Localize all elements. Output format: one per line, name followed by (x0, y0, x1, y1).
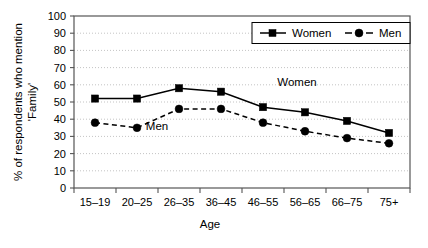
chart-container: 0102030405060708090100 15–1920–2526–3536… (0, 0, 428, 248)
annotation-men: Men (146, 120, 168, 132)
y-axis-title-line1: % of respondents who mention (12, 23, 24, 181)
y-tick-label-60: 60 (54, 79, 66, 91)
data-point-men-6: Men 66–75: 29 (343, 134, 351, 142)
data-point-men-2: Men 26–35: 46 (175, 105, 183, 113)
y-tick-label-90: 90 (54, 27, 66, 39)
y-tick-label-70: 70 (54, 62, 66, 74)
data-point-women-3: Women 36–45: 56 (217, 88, 224, 95)
x-axis-title: Age (200, 218, 220, 230)
data-point-women-5: Women 56–65: 44 (301, 109, 308, 116)
x-tick-label-5: 56–65 (290, 196, 321, 208)
x-tick-label-7: 75+ (380, 196, 399, 208)
annotation-women: Women (277, 76, 316, 88)
chart-legend[interactable]: Women Men (252, 23, 410, 44)
data-point-men-7: Men 75+: 26 (385, 139, 393, 147)
legend-marker-square-women (269, 30, 276, 37)
data-point-women-6: Women 66–75: 39 (343, 117, 350, 124)
data-point-men-0: Men 15–19: 38 (91, 119, 99, 127)
data-point-women-7: Women 75+: 32 (385, 129, 392, 136)
family-mention-by-age-line-chart: 0102030405060708090100 15–1920–2526–3536… (0, 0, 428, 248)
data-point-women-1: Women 20–25: 52 (133, 95, 140, 102)
legend-label-men: Men (379, 27, 401, 39)
y-tick-label-0: 0 (60, 182, 66, 194)
x-tick-label-3: 36–45 (206, 196, 237, 208)
y-tick-label-40: 40 (54, 113, 66, 125)
data-point-men-1: Men 20–25: 35 (133, 124, 141, 132)
data-point-men-4: Men 46–55: 38 (259, 119, 267, 127)
data-point-men-3: Men 36–45: 46 (217, 105, 225, 113)
y-tick-label-80: 80 (54, 44, 66, 56)
y-tick-label-10: 10 (54, 165, 66, 177)
x-tick-label-0: 15–19 (80, 196, 111, 208)
x-tick-label-4: 46–55 (248, 196, 279, 208)
y-tick-label-20: 20 (54, 148, 66, 160)
x-tick-label-6: 66–75 (332, 196, 363, 208)
y-tick-label-50: 50 (54, 96, 66, 108)
legend-label-women: Women (292, 27, 331, 39)
data-point-women-0: Women 15–19: 52 (91, 95, 98, 102)
y-tick-label-30: 30 (54, 130, 66, 142)
y-axis-title-line2: 'Family' (26, 83, 38, 121)
data-point-women-4: Women 46–55: 47 (259, 104, 266, 111)
legend-marker-circle-men (355, 29, 363, 37)
data-point-women-2: Women 26–35: 58 (175, 85, 182, 92)
y-tick-label-100: 100 (48, 10, 66, 22)
x-tick-label-1: 20–25 (122, 196, 153, 208)
data-point-men-5: Men 56–65: 33 (301, 127, 309, 135)
x-tick-label-2: 26–35 (164, 196, 195, 208)
